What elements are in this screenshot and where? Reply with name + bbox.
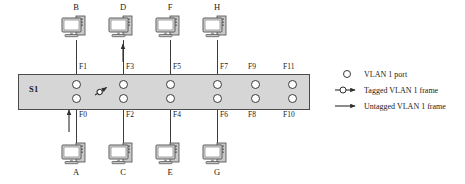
computer-icon-c [107,141,141,167]
port-f3[interactable] [119,80,128,89]
node-label-h: H [201,2,233,12]
computer-icon-e [154,141,188,167]
port-label-f7: F7 [220,62,228,71]
legend-item-tagged-frame: Tagged VLAN 1 frame [330,82,462,98]
node-label-a: A [60,167,92,177]
port-label-f0: F0 [79,110,87,119]
port-label-f1: F1 [79,62,87,71]
port-f4[interactable] [166,94,175,103]
legend-label-vlan-port: VLAN 1 port [364,70,407,79]
tagged-frame-arrow-icon [330,85,364,95]
port-label-f8: F8 [248,110,256,119]
port-f2[interactable] [119,94,128,103]
port-f9[interactable] [251,80,260,89]
vlan-port-circle-icon [330,70,364,78]
node-label-b: B [60,2,92,12]
node-label-f: F [154,2,186,12]
port-label-f4: F4 [173,110,181,119]
port-f0[interactable] [72,94,81,103]
port-f1[interactable] [72,80,81,89]
port-label-f6: F6 [220,110,228,119]
port-f7[interactable] [213,80,222,89]
port-f8[interactable] [251,94,260,103]
legend: VLAN 1 port Tagged VLAN 1 frame [330,66,462,114]
port-f5[interactable] [166,80,175,89]
legend-label-tagged-frame: Tagged VLAN 1 frame [364,86,438,95]
switch-name-label: S1 [29,84,38,94]
computer-icon-g [201,141,235,167]
node-label-e: E [154,167,186,177]
port-label-f2: F2 [126,110,134,119]
legend-item-untagged-frame: Untagged VLAN 1 frame [330,98,462,114]
switch-chassis [18,74,310,110]
port-label-f11: F11 [283,62,294,71]
node-label-d: D [107,2,139,12]
computer-icon-h [201,14,235,40]
port-label-f5: F5 [173,62,181,71]
vlan-diagram-canvas: B D [0,0,465,184]
port-label-f9: F9 [248,62,256,71]
port-f11[interactable] [288,80,297,89]
computer-icon-a [60,141,94,167]
port-label-f3: F3 [126,62,134,71]
port-f10[interactable] [288,94,297,103]
computer-icon-b [60,14,94,40]
port-f6[interactable] [213,94,222,103]
node-label-c: C [107,167,139,177]
computer-icon-f [154,14,188,40]
legend-label-untagged-frame: Untagged VLAN 1 frame [364,102,446,111]
node-label-g: G [201,167,233,177]
port-label-f10: F10 [283,110,295,119]
legend-item-vlan-port: VLAN 1 port [330,66,462,82]
computer-icon-d [107,14,141,40]
untagged-frame-arrow-icon [330,101,364,111]
